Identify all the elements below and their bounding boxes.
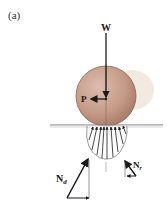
weight-label: W xyxy=(101,22,111,33)
normal-force-r-label: Nr xyxy=(133,160,143,171)
figure-caption: (a) xyxy=(8,9,21,22)
free-body-diagram: (a) W P Nd xyxy=(0,0,167,205)
center-point xyxy=(105,98,107,100)
contact-pressure-distribution xyxy=(87,126,128,172)
normal-force-d-label: Nd xyxy=(56,173,67,186)
normal-force-d-vector-diagram xyxy=(67,159,89,198)
ground-shading xyxy=(50,125,163,128)
push-force-label: P xyxy=(81,94,87,104)
